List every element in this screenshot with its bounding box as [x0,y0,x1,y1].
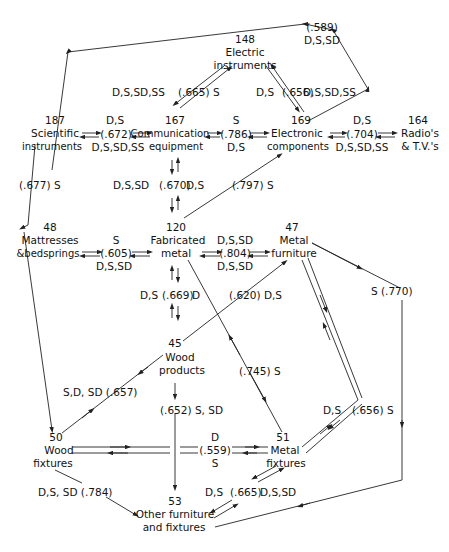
svg-text:120: 120 [166,221,186,233]
svg-text:Wood: Wood [44,444,73,456]
svg-text:(.665): (.665) [230,486,262,498]
node-electronic-components: 169 Electronic components [267,114,329,152]
svg-text:50: 50 [49,431,62,443]
edge-label-770: S (.770) [371,285,413,297]
svg-text:D: D [192,289,200,301]
node-scientific-instruments: 187 Scientific instruments [22,114,82,152]
svg-text:51: 51 [276,431,289,443]
edge-label-656-top: D,S (.656) D,S,SD,SS [256,86,356,98]
svg-text:S: S [113,234,120,246]
svg-text:(.589): (.589) [306,21,338,33]
edge-label-656-mid: D,S (.656) S [323,404,394,416]
edge-label-559: D (.559) S [199,431,231,469]
svg-text:(.652) S, SD: (.652) S, SD [160,404,223,416]
svg-text:(.665) S: (.665) S [178,86,220,98]
svg-text:D,S,SD,SS: D,S,SD,SS [303,86,356,98]
svg-text:(.669): (.669) [162,289,194,301]
svg-text:45: 45 [168,337,181,349]
svg-text:D,S: D,S [205,486,223,498]
svg-text:148: 148 [235,33,255,45]
svg-text:Metal: Metal [271,444,300,456]
edge-label-589: (.589) D,S,SD [304,21,340,46]
svg-text:47: 47 [285,221,298,233]
edge-label-665-top: D,S,SD,SS (.665) S [112,86,220,98]
svg-text:D,S: D,S [323,404,341,416]
node-metal-fixtures: 51 Metal fixtures [266,431,306,469]
svg-text:Radio's: Radio's [401,127,439,139]
edge-label-669: D,S (.669) D [140,289,200,301]
edge-label-804: D,S,SD (.804) D,S,SD [217,234,253,272]
svg-text:components: components [267,141,329,152]
svg-text:48: 48 [43,221,56,233]
svg-text:D,S: D,S [106,114,124,126]
edge-label-657: S,D, SD (.657) [63,386,137,398]
svg-text:Wood: Wood [165,351,194,363]
svg-text:Fabricated: Fabricated [151,234,206,246]
svg-text:(.559): (.559) [199,444,231,456]
edge-label-745: (.745) S [239,365,281,377]
svg-text:(.672): (.672) [100,128,132,140]
edge-label-797: (.797) S [232,179,274,191]
svg-text:169: 169 [291,114,311,126]
node-fabricated-metal: 120 Fabricated metal [151,221,206,259]
svg-text:Scientific: Scientific [31,127,79,139]
svg-text:fixtures: fixtures [266,457,306,469]
edge-label-704: D,S (.704) D,S,SD,SS [336,114,389,153]
industry-linkage-diagram: 148 Electric instruments 187 Scientific … [0,0,449,552]
edge-label-670: D,S,SD (.670) D,S [113,179,204,191]
svg-text:D,S,SD,SS: D,S,SD,SS [112,86,165,98]
svg-text:metal: metal [161,247,191,259]
svg-text:(.704): (.704) [346,128,378,140]
svg-text:&bedsprings: &bedsprings [17,248,80,259]
svg-text:(.804): (.804) [219,247,251,259]
svg-text:S: S [233,114,240,126]
edge-label-605: S (.605) D,S,SD [96,234,132,272]
svg-text:S: S [212,457,219,469]
svg-text:D,S,SD: D,S,SD [304,34,340,46]
edge-label-665-bottom: D,S (.665) D,S,SD [205,486,296,498]
svg-text:(.605): (.605) [100,247,132,259]
svg-text:(.786): (.786) [220,128,252,140]
svg-text:D,S: D,S [256,86,274,98]
node-metal-furniture: 47 Metal furniture [271,221,316,259]
svg-text:D,S,SD,SS: D,S,SD,SS [336,141,389,153]
svg-text:(.656) S: (.656) S [352,404,394,416]
svg-text:& T.V.'s: & T.V.'s [401,140,439,152]
svg-text:187: 187 [45,114,65,126]
node-wood-fixtures: 50 Wood fixtures [33,431,73,469]
svg-text:D: D [211,431,219,443]
edge-label-677: (.677) S [19,179,61,191]
svg-text:instruments: instruments [213,59,276,71]
svg-text:S (.770): S (.770) [371,285,413,297]
svg-text:(.797) S: (.797) S [232,179,274,191]
svg-text:D,S: D,S [353,114,371,126]
edge-label-620: (.620) D,S [229,289,282,301]
edge-label-652: (.652) S, SD [160,404,223,416]
svg-text:(.620) D,S: (.620) D,S [229,289,282,301]
svg-text:D,S: D,S [227,141,245,153]
svg-text:instruments: instruments [22,141,82,152]
svg-text:furniture: furniture [271,247,316,259]
node-electric-instruments: 148 Electric instruments [213,33,276,71]
svg-text:164: 164 [408,114,428,126]
svg-text:Other furniture: Other furniture [136,508,215,520]
svg-text:(.745) S: (.745) S [239,365,281,377]
svg-text:Electric: Electric [226,46,265,58]
node-radios-tvs: 164 Radio's & T.V.'s [401,114,439,152]
svg-text:D,S, SD (.784): D,S, SD (.784) [38,486,112,498]
svg-text:D,S,SD: D,S,SD [96,260,132,272]
svg-text:Metal: Metal [280,234,309,246]
svg-text:D,S: D,S [186,179,204,191]
svg-text:equipment: equipment [149,141,203,152]
svg-text:53: 53 [168,495,181,507]
svg-text:D,S,SD: D,S,SD [113,179,149,191]
svg-text:Mattresses: Mattresses [21,234,78,246]
svg-text:D,S,SD: D,S,SD [217,260,253,272]
svg-text:(.677) S: (.677) S [19,179,61,191]
svg-text:Electronic: Electronic [271,127,323,139]
svg-text:167: 167 [165,114,185,126]
svg-text:fixtures: fixtures [33,457,73,469]
svg-text:D,S: D,S [140,289,158,301]
node-mattresses-bedsprings: 48 Mattresses &bedsprings [17,221,80,259]
svg-text:and fixtures: and fixtures [143,521,206,533]
